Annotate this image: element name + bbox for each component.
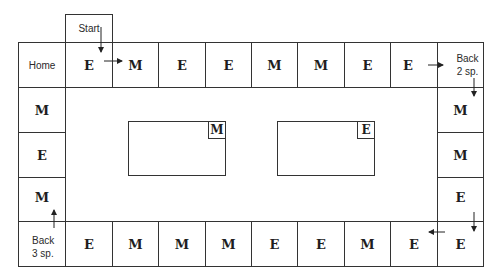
space-right-2: M	[437, 132, 484, 178]
space-bottom-4: M	[205, 221, 252, 267]
home-label: Home	[29, 59, 56, 72]
m-pile-tag: M	[208, 121, 226, 139]
space-left-2: E	[18, 132, 66, 178]
space-home: Home	[18, 42, 66, 88]
space-letter: E	[456, 190, 466, 205]
space-letter: E	[224, 58, 234, 73]
space-bottom-8: E	[390, 221, 438, 267]
m-card-pile: M	[128, 121, 226, 176]
space-letter: M	[360, 237, 374, 252]
space-back-3: Back 3 sp.	[18, 221, 66, 267]
space-bottom-2: M	[112, 221, 159, 267]
e-card-pile: E	[277, 121, 375, 176]
pile-letter: M	[210, 123, 223, 137]
space-bottom-3: M	[158, 221, 206, 267]
space-letter: E	[316, 237, 326, 252]
space-left-1: M	[18, 87, 66, 133]
back-3-label: Back 3 sp.	[32, 234, 54, 260]
space-letter: E	[403, 58, 413, 73]
space-top-5: M	[251, 42, 298, 88]
e-pile-tag: E	[357, 121, 375, 139]
space-letter: M	[175, 237, 189, 252]
space-letter: M	[35, 103, 49, 118]
space-letter: E	[363, 58, 373, 73]
back-2-label: Back 2 sp.	[456, 52, 478, 78]
space-bottom-7: M	[344, 221, 391, 267]
space-right-1: M	[437, 87, 484, 133]
start-box: Start	[65, 14, 113, 43]
space-letter: M	[453, 103, 467, 118]
space-letter: E	[37, 148, 47, 163]
space-letter: M	[35, 190, 49, 205]
space-bottom-6: E	[297, 221, 345, 267]
space-letter: M	[221, 237, 235, 252]
space-letter: E	[409, 237, 419, 252]
space-letter: M	[128, 58, 142, 73]
space-top-8: E	[390, 42, 438, 88]
pile-letter: E	[361, 123, 370, 137]
start-label: Start	[78, 22, 99, 35]
space-bottom-9: E	[437, 221, 484, 267]
space-letter: M	[267, 58, 281, 73]
space-bottom-5: E	[251, 221, 298, 267]
space-left-3: M	[18, 177, 66, 222]
space-top-1: E	[65, 42, 113, 88]
space-top-3: E	[158, 42, 206, 88]
space-letter: E	[456, 237, 466, 252]
space-letter: M	[128, 237, 142, 252]
space-top-2: M	[112, 42, 159, 88]
space-letter: E	[84, 237, 94, 252]
game-board: Start Home E M E E M M E E Back 2 sp. M …	[0, 0, 500, 279]
space-letter: M	[453, 148, 467, 163]
space-letter: E	[84, 58, 94, 73]
space-top-4: E	[205, 42, 252, 88]
space-bottom-1: E	[65, 221, 113, 267]
space-right-3: E	[437, 177, 484, 222]
space-letter: E	[177, 58, 187, 73]
space-top-7: E	[344, 42, 391, 88]
space-top-6: M	[297, 42, 345, 88]
space-back-2: Back 2 sp.	[437, 42, 484, 88]
space-letter: M	[314, 58, 328, 73]
space-letter: E	[270, 237, 280, 252]
